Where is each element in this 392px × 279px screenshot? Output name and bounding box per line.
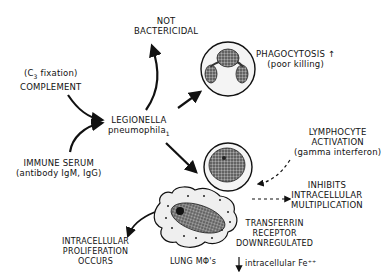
complement-line2: COMPLEMENT [20,82,81,92]
immune-serum-label: IMMUNE SERUM (antibody IgM, IgG) [16,158,102,178]
arrow-immune-serum [70,123,102,152]
proliferation-label: INTRACELLULAR PROLIFERATION OCCURS [62,237,129,267]
neutrophil-cell [201,42,255,96]
complement-label: (C3 fixation) COMPLEMENT [20,68,81,92]
inhibits-line3: MULTIPLICATION [291,200,363,210]
lung-macrophage-label: LUNG MΦ's [170,257,216,267]
arrow-to-not-bactericidal [146,46,157,110]
legionella-label: LEGIONELLA pneumophila1 [108,115,170,139]
phagocytosis-label: PHAGOCYTOSIS ↑ (poor killing) [256,49,335,69]
proliferation-line1: INTRACELLULAR [62,237,129,247]
iron-label: intracellular Fe⁺⁺ [245,259,317,269]
legionella-line2: pneumophila1 [108,125,170,139]
lymphocyte-line3: (gamma interferon) [294,147,381,157]
arrow-to-lymphocyte [166,143,196,172]
not-bactericidal-label: NOT BACTERICIDAL [134,16,198,36]
phagocytosis-line1: PHAGOCYTOSIS ↑ [256,49,335,59]
lymphocyte-activation-label: LYMPHOCYTE ACTIVATION (gamma interferon) [294,127,381,157]
phagocytosis-line2: (poor killing) [256,59,335,69]
not-bactericidal-line1: NOT [134,16,198,26]
proliferation-line2: PROLIFERATION [62,247,129,257]
transferrin-label: TRANSFERRIN RECEPTOR DOWNREGULATED [236,219,313,249]
transferrin-line2: RECEPTOR [236,229,313,239]
lymphocyte-line1: LYMPHOCYTE [294,127,381,137]
inhibits-line2: INTRACELLULAR [291,190,363,200]
macrophage-cell [154,187,237,247]
immune-serum-line1: IMMUNE SERUM [16,158,102,168]
proliferation-line3: OCCURS [62,257,129,267]
not-bactericidal-line2: BACTERICIDAL [134,26,198,36]
transferrin-line1: TRANSFERRIN [236,219,313,229]
arrow-to-proliferation [128,212,155,236]
inhibits-line1: INHIBITS [291,180,363,190]
complement-line1: (C3 fixation) [20,68,81,82]
arrow-complement [68,95,102,120]
arrow-to-neutrophil [178,92,200,108]
dashed-arrow-interferon [258,160,290,184]
immune-serum-line2: (antibody IgM, IgG) [16,168,102,178]
lymphocyte-line2: ACTIVATION [294,137,381,147]
transferrin-line3: DOWNREGULATED [236,239,313,249]
lymphocyte-cell [204,143,252,191]
legionella-line1: LEGIONELLA [108,115,170,125]
inhibits-label: INHIBITS INTRACELLULAR MULTIPLICATION [291,180,363,210]
